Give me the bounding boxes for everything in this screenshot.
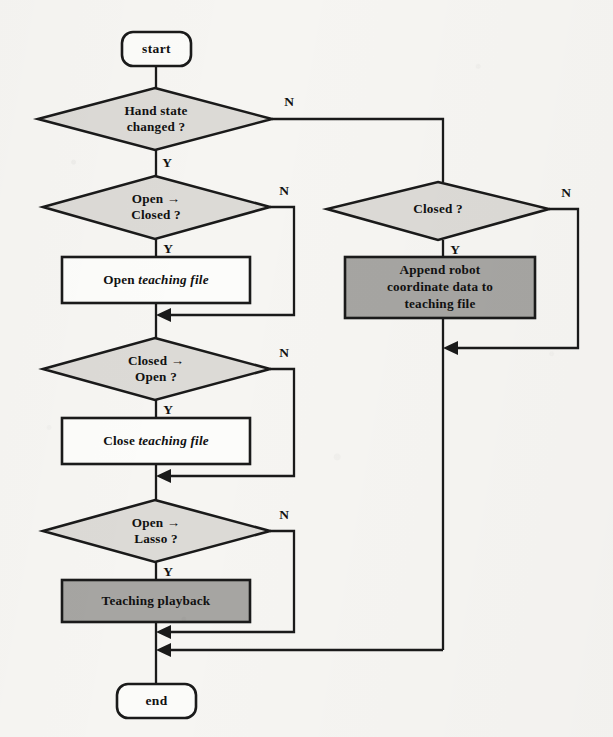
node-append-robot-data[interactable]: Append robot coordinate data to teaching… [345, 257, 535, 318]
end-label: end [145, 693, 167, 708]
node-close-teaching-file[interactable]: Close teaching file [62, 418, 250, 464]
append-robot-data-line2: coordinate data to [387, 279, 493, 294]
closed-to-open-label-line1: Closed → [128, 353, 184, 368]
arrowhead-merge3 [156, 625, 171, 639]
node-open-teaching-file[interactable]: Open teaching file [62, 257, 250, 303]
node-closed[interactable]: Closed ? [327, 182, 549, 240]
append-robot-data-line3: teaching file [404, 296, 475, 311]
open-teaching-file-text-italic: teaching file [138, 272, 208, 287]
open-to-lasso-label-line2: Lasso ? [134, 531, 178, 546]
branch-label-open-to-closed-no: N [279, 183, 289, 198]
node-closed-to-open[interactable]: Closed → Open ? [43, 338, 270, 400]
closed-label: Closed ? [413, 201, 463, 216]
arrowhead-merge1 [156, 308, 171, 322]
flowchart-canvas: start Hand state changed ? N Y Open → Cl… [0, 0, 613, 737]
append-robot-data-line1: Append robot [400, 262, 481, 277]
branch-label-open-to-lasso-yes: Y [163, 564, 173, 579]
teaching-playback-label: Teaching playback [102, 593, 211, 608]
hand-state-label-line2: changed ? [127, 119, 186, 134]
start-label: start [142, 41, 171, 56]
open-teaching-file-label: Open teaching file [103, 272, 208, 287]
branch-label-open-to-lasso-no: N [279, 507, 289, 522]
node-teaching-playback[interactable]: Teaching playback [62, 580, 250, 622]
close-teaching-file-label: Close teaching file [103, 433, 209, 448]
closed-to-open-label-line2: Open ? [135, 369, 177, 384]
branch-label-hand-state-no: N [284, 94, 294, 109]
node-hand-state-changed[interactable]: Hand state changed ? [38, 88, 272, 150]
branch-label-hand-state-yes: Y [162, 155, 172, 170]
arrowhead-merge2 [156, 469, 171, 483]
open-to-closed-label-line1: Open → [132, 191, 180, 206]
node-start[interactable]: start [122, 32, 191, 66]
branch-label-closed-yes: Y [450, 242, 460, 257]
node-open-to-closed[interactable]: Open → Closed ? [43, 176, 270, 239]
edge-hand-state-no-to-closed [272, 119, 443, 182]
open-teaching-file-text-plain: Open [103, 272, 138, 287]
close-teaching-file-text-italic: teaching file [138, 433, 208, 448]
node-end[interactable]: end [117, 684, 196, 718]
branch-label-open-to-closed-yes: Y [163, 241, 173, 256]
flowchart-page: start Hand state changed ? N Y Open → Cl… [0, 0, 613, 737]
node-open-to-lasso[interactable]: Open → Lasso ? [43, 500, 270, 562]
branch-label-closed-to-open-yes: Y [163, 402, 173, 417]
branch-label-closed-to-open-no: N [279, 345, 289, 360]
open-to-lasso-label-line1: Open → [132, 515, 180, 530]
hand-state-label-line1: Hand state [124, 103, 187, 118]
arrowhead-append-merge [443, 341, 458, 355]
arrowhead-merge4 [156, 643, 171, 657]
branch-label-closed-no: N [561, 185, 571, 200]
close-teaching-file-text-plain: Close [103, 433, 138, 448]
open-to-closed-label-line2: Closed ? [131, 207, 181, 222]
